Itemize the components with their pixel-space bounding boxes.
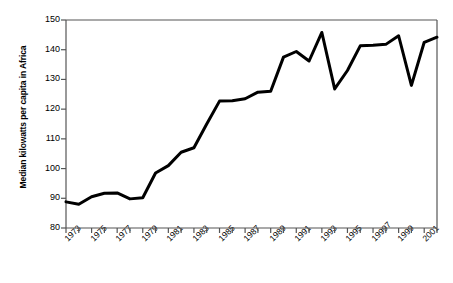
y-axis-ticks <box>61 20 66 228</box>
line-chart: Median kilowatts per capita in Africa 80… <box>0 0 453 283</box>
axis-lines <box>66 20 437 228</box>
x-axis-ticks <box>66 228 437 233</box>
data-series-line <box>66 32 437 204</box>
plot-area <box>0 0 453 283</box>
